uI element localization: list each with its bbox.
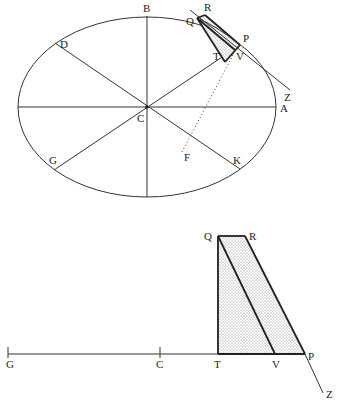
label-A: A — [280, 102, 288, 114]
label-C-bottom: C — [156, 358, 163, 370]
geometry-diagram: B D C A F K G Q R P T V Z Q R G C T V P … — [0, 0, 341, 403]
label-R-bottom: R — [249, 230, 257, 242]
bottom-figure: Q R G C T V P Z — [6, 230, 333, 400]
center-point — [145, 105, 149, 109]
label-P-bottom: P — [308, 350, 314, 362]
label-F: F — [184, 151, 190, 163]
top-figure: B D C A F K G Q R P T V Z — [18, 1, 291, 197]
label-P: P — [243, 32, 249, 44]
label-T: T — [213, 50, 220, 62]
label-B: B — [143, 2, 150, 14]
label-T-bottom: T — [214, 358, 221, 370]
shaded-region-bottom — [218, 236, 305, 354]
label-V: V — [236, 50, 244, 62]
label-Z: Z — [284, 91, 291, 103]
label-K: K — [233, 154, 241, 166]
label-G-bottom: G — [6, 358, 14, 370]
dotted-line-PF — [182, 55, 233, 152]
label-Q: Q — [186, 15, 194, 27]
label-Z-bottom: Z — [326, 388, 333, 400]
label-R: R — [204, 1, 212, 13]
label-C: C — [137, 112, 144, 124]
label-G: G — [49, 154, 57, 166]
label-V-bottom: V — [272, 358, 280, 370]
label-D: D — [60, 38, 68, 50]
label-Q-bottom: Q — [204, 230, 212, 242]
